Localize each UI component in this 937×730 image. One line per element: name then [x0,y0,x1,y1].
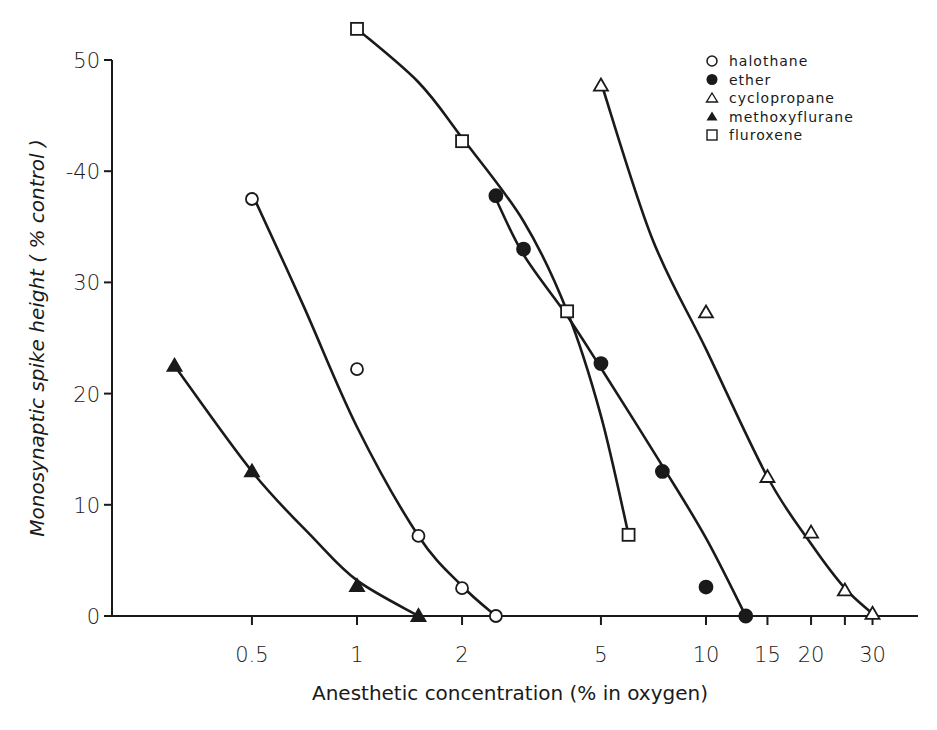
filled-circle-icon [707,74,718,85]
marker-fluroxene [623,529,635,541]
legend-label: methoxyflurane [729,109,854,125]
marker-ether [656,465,669,478]
marker-ether [489,189,502,202]
marker-fluroxene [351,23,363,35]
x-tick-label: 1 [350,643,363,667]
dose-response-chart: 0102030-40500.512510152030 halothaneethe… [0,0,937,730]
open-triangle-icon [707,93,718,102]
marker-cyclopropane [804,526,818,538]
curve-fluroxene [357,29,629,535]
curve-halothane [252,193,496,616]
legend: halothaneethercyclopropanemethoxyflurane… [707,53,854,143]
marker-ether [594,357,607,370]
curve-methoxyflurane [175,366,419,616]
y-axis-title: Monosynaptic spike height ( % control ) [25,139,49,537]
legend-label: halothane [729,53,808,69]
legend-label: fluroxene [729,127,803,143]
curve-ether [496,199,746,616]
x-tick-label: 30 [859,643,886,667]
marker-halothane [490,610,502,622]
x-axis-title: Anesthetic concentration (% in oxygen) [312,681,708,705]
legend-item-fluroxene: fluroxene [707,127,803,143]
marker-fluroxene [456,135,468,147]
x-tick-label: 10 [693,643,720,667]
y-tick-label: -40 [66,160,100,184]
marker-halothane [456,582,468,594]
marker-cyclopropane [594,79,608,91]
legend-item-ether: ether [707,72,772,88]
marker-cyclopropane [838,583,852,595]
x-tick-label: 2 [455,643,468,667]
marker-cyclopropane [760,470,774,482]
x-tick-label: 20 [798,643,825,667]
open-square-icon [707,130,717,140]
curve-cyclopropane [601,82,873,614]
x-tick-label: 5 [594,643,607,667]
marker-methoxyflurane [168,359,182,371]
marker-halothane [351,363,363,375]
y-tick-label: 0 [87,605,100,629]
legend-item-cyclopropane: cyclopropane [707,90,836,106]
legend-item-methoxyflurane: methoxyflurane [707,109,854,125]
marker-ether [700,581,713,594]
marker-ether [517,243,530,256]
marker-ether [739,610,752,623]
marker-cyclopropane [699,305,713,317]
filled-triangle-icon [707,112,718,121]
x-tick-label: 0.5 [235,643,268,667]
marker-halothane [412,530,424,542]
y-tick-label: 50 [73,49,100,73]
marker-fluroxene [561,305,573,317]
legend-label: ether [729,72,771,88]
marker-halothane [246,193,258,205]
y-tick-label: 20 [73,383,100,407]
y-tick-label: 30 [73,271,100,295]
legend-item-halothane: halothane [707,53,808,69]
x-tick-label: 15 [754,643,781,667]
open-circle-icon [707,56,717,66]
y-tick-label: 10 [73,494,100,518]
legend-label: cyclopropane [729,90,835,106]
